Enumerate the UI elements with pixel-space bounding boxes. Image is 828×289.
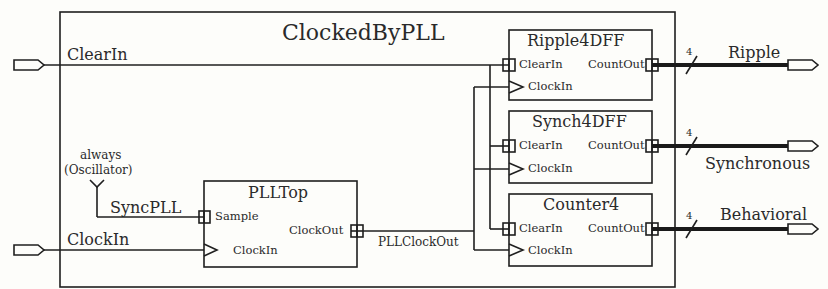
block-ripple4dff-title[interactable]: Ripple4DFF: [527, 33, 624, 49]
bus-width-ripple: 4: [686, 47, 692, 57]
port-label-countout: CountOut: [588, 140, 645, 152]
net-label-syncpll: SyncPLL: [110, 200, 181, 216]
oscillator-label-line2: (Oscillator): [64, 164, 133, 176]
module-boundary: [60, 12, 675, 287]
input-port-clearin-icon[interactable]: [14, 60, 44, 70]
port-label-clearin: ClearIn: [519, 59, 563, 71]
output-label-ripple: Ripple: [728, 45, 780, 61]
net-label-pllclockout: PLLClockOut: [378, 236, 459, 248]
input-label-clearin: ClearIn: [67, 47, 128, 63]
port-label-clockin: ClockIn: [528, 163, 573, 175]
port-label-clockin: ClockIn: [528, 245, 573, 257]
output-port-synchronous-icon[interactable]: [788, 141, 818, 151]
port-label-countout: CountOut: [588, 223, 645, 235]
clock-triangle-icon: [204, 244, 217, 256]
port-label-countout: CountOut: [588, 59, 645, 71]
output-label-behavioral: Behavioral: [720, 207, 807, 223]
block-counter4-title[interactable]: Counter4: [543, 197, 619, 213]
oscillator-antenna-icon: [90, 180, 104, 187]
output-label-synchronous: Synchronous: [705, 156, 810, 172]
bus-width-synchronous: 4: [686, 128, 692, 138]
port-label-clockin: ClockIn: [233, 245, 278, 257]
output-port-ripple-icon[interactable]: [788, 60, 818, 70]
port-label-clockout: ClockOut: [289, 225, 343, 237]
port-label-sample: Sample: [215, 211, 258, 223]
module-title: ClockedByPLL: [282, 22, 445, 44]
bus-width-behavioral: 4: [686, 211, 692, 221]
input-port-clockin-icon[interactable]: [14, 245, 44, 255]
port-label-clearin: ClearIn: [519, 140, 563, 152]
port-label-clearin: ClearIn: [519, 223, 563, 235]
block-plltop-title[interactable]: PLLTop: [248, 185, 308, 201]
port-label-clockin: ClockIn: [528, 81, 573, 93]
output-port-behavioral-icon[interactable]: [788, 224, 818, 234]
oscillator-label-line1: always: [80, 149, 121, 161]
block-synch4dff-title[interactable]: Synch4DFF: [532, 114, 627, 130]
input-label-clockin: ClockIn: [67, 232, 129, 248]
